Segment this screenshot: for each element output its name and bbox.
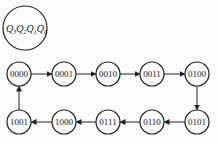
state-nodes: 0000000100100011010001010110011110001001	[7, 62, 209, 134]
state-node-0111: 0111	[96, 110, 120, 134]
state-node-1001: 1001	[7, 110, 31, 134]
legend-label: Q3Q2Q1Q0	[6, 23, 47, 35]
state-label: 0011	[143, 69, 161, 79]
state-node-0110: 0110	[140, 110, 164, 134]
legend-circle: Q3Q2Q1Q0	[3, 6, 47, 50]
state-node-0100: 0100	[185, 62, 209, 86]
state-label: 0111	[99, 117, 116, 127]
state-node-0000: 0000	[7, 62, 31, 86]
state-label: 0001	[55, 69, 73, 79]
state-label: 0110	[143, 117, 161, 127]
state-node-1000: 1000	[52, 110, 76, 134]
state-label: 0101	[188, 117, 206, 127]
state-diagram: Q3Q2Q1Q0 0000000100100011010001010110011…	[0, 0, 218, 144]
state-label: 0000	[10, 69, 29, 79]
state-label: 1000	[55, 117, 74, 127]
state-node-0101: 0101	[185, 110, 209, 134]
state-label: 0100	[188, 69, 207, 79]
state-node-0001: 0001	[52, 62, 76, 86]
state-label: 1001	[10, 117, 28, 127]
state-node-0010: 0010	[96, 62, 120, 86]
state-node-0011: 0011	[140, 62, 164, 86]
state-label: 0010	[99, 69, 118, 79]
